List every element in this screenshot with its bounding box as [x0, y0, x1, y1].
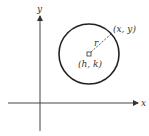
y-axis-label: y: [36, 4, 43, 14]
x-axis-label: x: [141, 98, 146, 108]
circle-diagram: y x (x, y) r (h, k): [0, 0, 149, 136]
radius-label: r: [94, 38, 99, 48]
point-label: (x, y): [113, 24, 136, 34]
center-label: (h, k): [78, 59, 102, 69]
center-marker: [87, 52, 91, 56]
